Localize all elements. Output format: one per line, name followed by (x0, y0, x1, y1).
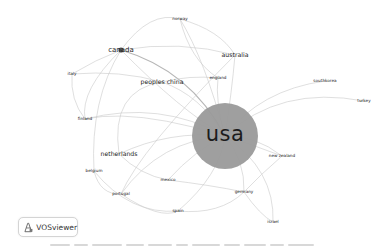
node-label-germany[interactable]: germany (235, 190, 254, 194)
node-label-turkey[interactable]: turkey (357, 99, 370, 103)
node-label-southkorea[interactable]: southkorea (313, 79, 336, 83)
network-canvas[interactable] (0, 0, 390, 252)
node-label-usa[interactable]: usa (206, 124, 245, 145)
node-label-canada[interactable]: canada (108, 47, 134, 54)
vosviewer-logo-icon (24, 222, 33, 233)
vosviewer-badge[interactable]: VOSviewer (18, 217, 78, 237)
node-label-netherlands[interactable]: netherlands (100, 151, 137, 157)
node-label-norway[interactable]: norway (172, 17, 187, 21)
node-label-israel[interactable]: israel (267, 220, 278, 224)
node-label-england[interactable]: england (210, 76, 227, 80)
node-label-peoples-china[interactable]: peoples china (141, 79, 184, 85)
node-label-spain[interactable]: spain (172, 209, 183, 213)
vosviewer-label: VOSviewer (36, 223, 77, 232)
node-label-belgium[interactable]: belgium (86, 169, 103, 173)
node-label-mexico[interactable]: mexico (160, 178, 175, 182)
node-label-new-zealand[interactable]: new zealand (269, 154, 295, 158)
node-label-finland[interactable]: finland (78, 117, 92, 121)
node-label-portugal[interactable]: portugal (112, 192, 130, 196)
node-label-italy[interactable]: italy (67, 72, 76, 76)
footer-caption (50, 243, 360, 247)
node-label-australia[interactable]: australia (222, 52, 249, 58)
